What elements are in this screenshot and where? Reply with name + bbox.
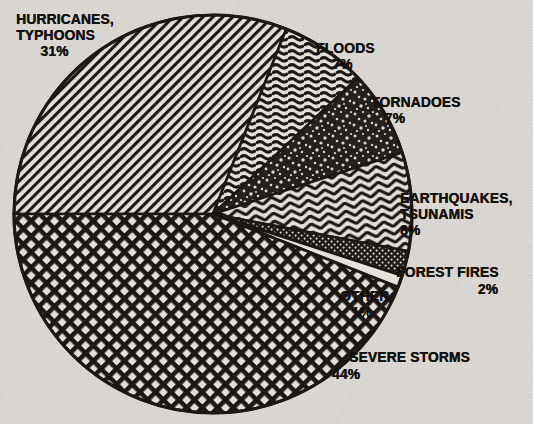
slice-label-line1: FOREST FIRES bbox=[396, 264, 499, 280]
slice-label-other: OTHER 1% bbox=[340, 288, 389, 320]
slice-label-line1: HURRICANES, bbox=[16, 11, 114, 27]
slice-percent: 1% bbox=[340, 304, 389, 320]
slice-percent: 2% bbox=[478, 281, 498, 297]
slice-label-line2: TSUNAMIS bbox=[400, 206, 473, 222]
slice-percent: 31% bbox=[16, 43, 114, 59]
slice-label-floods: FLOODS 7% bbox=[316, 40, 375, 72]
slice-percent: 8% bbox=[400, 222, 513, 238]
slice-percent: 44% bbox=[332, 366, 360, 382]
slice-label-line1: TORNADOES bbox=[371, 94, 460, 110]
slice-label-line1: SEVERE STORMS bbox=[349, 349, 470, 365]
slice-label-tornadoes: TORNADOES 7% bbox=[371, 94, 460, 126]
slice-label-line2: TYPHOONS bbox=[16, 27, 95, 43]
slice-label-hurricanes-typhoons: HURRICANES, TYPHOONS 31% bbox=[16, 11, 114, 59]
slice-label-line1: OTHER bbox=[340, 288, 389, 304]
slice-label-severe-storms: SEVERE STORMS 44% bbox=[349, 349, 470, 365]
slice-label-line1: EARTHQUAKES, bbox=[400, 190, 513, 206]
slice-label-line1: FLOODS bbox=[316, 40, 375, 56]
slice-percent: 7% bbox=[371, 110, 460, 126]
slice-percent: 7% bbox=[316, 56, 375, 72]
slice-label-forest-fires: FOREST FIRES 2% bbox=[396, 264, 499, 280]
slice-label-earthquakes-tsunamis: EARTHQUAKES, TSUNAMIS 8% bbox=[400, 190, 513, 238]
